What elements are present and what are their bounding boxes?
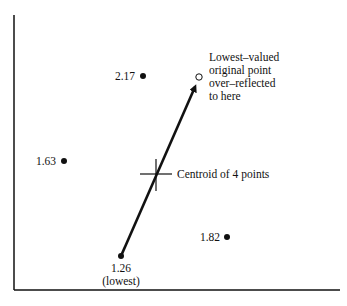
- label-1-63: 1.63: [36, 155, 56, 167]
- centroid-label: Centroid of 4 points: [177, 168, 270, 181]
- point-1-26: [118, 253, 124, 259]
- svg-text:original point: original point: [209, 64, 272, 77]
- label-lowest: (lowest): [102, 275, 140, 288]
- label-2-17: 2.17: [115, 70, 135, 82]
- centroid-marker: [140, 159, 172, 191]
- label-1-26: 1.26: [111, 262, 131, 274]
- svg-text:to here: to here: [209, 90, 241, 102]
- reflected-point: [196, 74, 202, 80]
- reflection-diagram: 2.17 1.63 1.82 1.26 (lowest) Lowest–valu…: [0, 0, 347, 306]
- point-1-63: [61, 158, 67, 164]
- point-1-82: [224, 234, 230, 240]
- svg-text:over–reflected: over–reflected: [209, 77, 276, 89]
- point-2-17: [140, 73, 146, 79]
- svg-text:Lowest–valued: Lowest–valued: [209, 51, 280, 63]
- label-1-82: 1.82: [200, 231, 220, 243]
- reflected-annotation: Lowest–valued original point over–reflec…: [209, 51, 280, 102]
